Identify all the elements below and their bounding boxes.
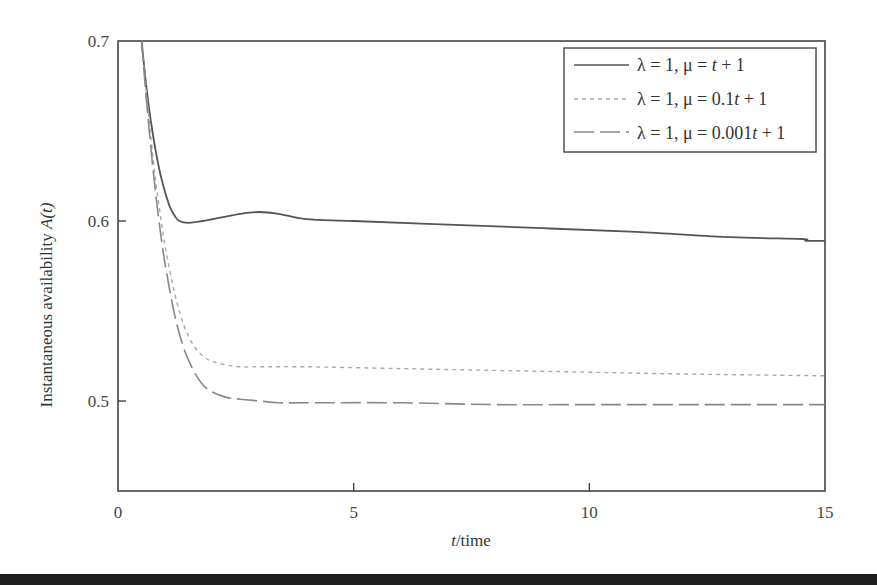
legend: λ = 1, μ = t + 1 λ = 1, μ = 0.1t + 1 λ =… bbox=[564, 48, 816, 152]
y-axis-title: Instantaneous availability A(t) bbox=[37, 202, 56, 407]
x-tick-label: 10 bbox=[581, 503, 598, 522]
legend-label-1: λ = 1, μ = t + 1 bbox=[637, 55, 745, 75]
legend-label-2: λ = 1, μ = 0.1t + 1 bbox=[637, 89, 767, 109]
x-tick-label: 5 bbox=[349, 503, 358, 522]
y-tick-label: 0.5 bbox=[88, 392, 109, 411]
axis-ticks bbox=[118, 221, 589, 491]
x-tick-label: 15 bbox=[817, 503, 834, 522]
y-tick-label: 0.6 bbox=[88, 212, 109, 231]
legend-label-3: λ = 1, μ = 0.001t + 1 bbox=[637, 123, 785, 143]
availability-chart: 0510150.50.60.7 t/time Instantaneous ava… bbox=[0, 0, 877, 574]
y-tick-label: 0.7 bbox=[88, 32, 110, 51]
x-tick-label: 0 bbox=[114, 503, 123, 522]
bottom-border-bar bbox=[0, 574, 877, 585]
x-axis-title: t/time bbox=[451, 531, 491, 550]
